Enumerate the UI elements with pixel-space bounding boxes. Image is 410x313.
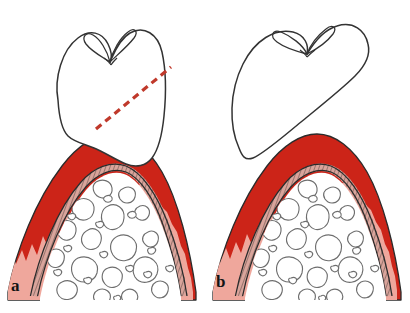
figure-root: a — [0, 0, 410, 313]
panel-b-label: b — [216, 273, 225, 290]
panel-b: b — [205, 0, 410, 313]
panel-b-illustration — [205, 0, 410, 313]
panel-a-illustration — [0, 0, 205, 313]
panel-a: a — [0, 0, 205, 313]
panel-a-label: a — [11, 277, 20, 294]
tooth-crown — [57, 30, 165, 166]
